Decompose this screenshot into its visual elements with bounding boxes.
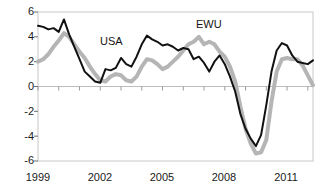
series-label-ewu: EWU bbox=[196, 19, 222, 30]
chart-plot-area bbox=[0, 0, 329, 190]
axis-ticks bbox=[34, 12, 38, 161]
y-tick-label-4: 4 bbox=[18, 31, 34, 42]
x-tick-label-2008: 2008 bbox=[204, 172, 244, 183]
y-tick-label-neg4: -4 bbox=[14, 131, 34, 142]
y-tick-label-6: 6 bbox=[18, 6, 34, 17]
series-label-usa: USA bbox=[100, 36, 123, 47]
x-tick-label-2011: 2011 bbox=[266, 172, 306, 183]
x-tick-label-2002: 2002 bbox=[80, 172, 120, 183]
series-line-ewu bbox=[38, 33, 313, 153]
y-tick-label-2: 2 bbox=[18, 56, 34, 67]
x-tick-label-2005: 2005 bbox=[142, 172, 182, 183]
y-tick-label-neg6: -6 bbox=[14, 155, 34, 166]
series-line-usa bbox=[38, 19, 313, 146]
chart-container: 6 4 2 0 -2 -4 -6 1999 2002 2005 2008 201… bbox=[0, 0, 329, 190]
y-tick-label-0: 0 bbox=[18, 81, 34, 92]
y-tick-label-neg2: -2 bbox=[14, 106, 34, 117]
x-tick-label-1999: 1999 bbox=[18, 172, 58, 183]
